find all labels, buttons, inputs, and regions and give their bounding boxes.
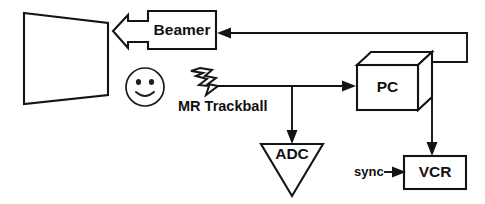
mr-trackball-label: MR Trackball [178, 98, 267, 114]
adc-label: ADC [275, 145, 309, 162]
branch-to-adc-arrowhead [287, 130, 298, 144]
vcr-label: VCR [419, 163, 452, 180]
pc-node[interactable]: PC [357, 52, 432, 110]
connector-trackball-to-adc [287, 86, 298, 144]
smiley-left-eye [136, 79, 141, 85]
pc-to-vcr-arrowhead [427, 142, 438, 156]
projection-screen [24, 13, 108, 104]
sync-input: sync [354, 164, 406, 179]
vcr-node[interactable]: VCR [404, 156, 466, 189]
adc-node[interactable]: ADC [261, 144, 323, 196]
pc-to-beamer-arrowhead [217, 28, 231, 39]
lightning-bolt-icon [191, 68, 218, 95]
beamer-label: Beamer [154, 21, 211, 38]
setup-block-diagram: Beamer MR Trackball ADC [0, 0, 485, 204]
pc-label: PC [377, 78, 399, 95]
beamer-node[interactable]: Beamer [113, 11, 216, 49]
observer-smiley [126, 68, 164, 106]
smiley-right-eye [149, 79, 154, 85]
trackball-to-pc-arrowhead [342, 81, 356, 92]
connector-trackball-to-pc [216, 81, 356, 92]
smiley-face-outline [126, 68, 164, 106]
diagram-canvas: Beamer MR Trackball ADC [0, 0, 485, 204]
sync-label: sync [354, 164, 384, 179]
projection-screen-outline [24, 13, 108, 104]
mr-trackball-node[interactable]: MR Trackball [178, 68, 267, 114]
